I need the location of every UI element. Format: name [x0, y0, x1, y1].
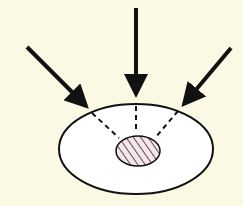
hatched-target-ellipse: [116, 136, 160, 166]
convergent-beam-diagram: [0, 0, 243, 206]
arrows: [27, 8, 231, 106]
arrow-left-icon: [27, 47, 86, 106]
arrow-right-icon: [184, 48, 231, 104]
